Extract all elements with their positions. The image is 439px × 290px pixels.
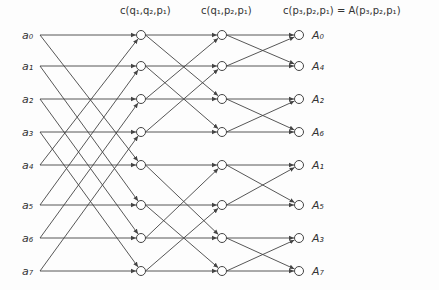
flow-edge [40, 70, 138, 205]
flow-edge [40, 35, 138, 161]
input-label: a₁ [22, 60, 33, 73]
flow-edge [40, 136, 138, 271]
output-label: A₂ [311, 93, 325, 106]
output-label: A₁ [311, 159, 324, 172]
node-stage2-row2 [218, 95, 227, 104]
node-stage2-row5 [218, 201, 227, 210]
node-stage1-row0 [137, 31, 146, 40]
stage2-header: c(q₁,p₂,p₁) [201, 5, 252, 16]
input-label: a₀ [22, 29, 34, 42]
output-label: A₄ [311, 60, 325, 73]
node-stage1-row7 [137, 267, 146, 276]
flow-edge [227, 238, 295, 269]
flow-edge [146, 38, 219, 99]
butterfly-graph: c(q₁,q₂,p₁) c(q₁,p₂,p₁) c(p₃,p₂,p₁) = A(… [0, 0, 439, 290]
node-stage3-row4 [295, 161, 304, 170]
node-stage2-row4 [218, 161, 227, 170]
output-label: A₇ [311, 265, 325, 278]
stage1-header: c(q₁,q₂,p₁) [120, 5, 171, 16]
node-stage2-row7 [218, 267, 227, 276]
node-stage2-row3 [218, 128, 227, 137]
flow-edge [227, 167, 295, 205]
flow-edge [40, 66, 138, 201]
flow-edge [40, 103, 138, 238]
flow-edge [146, 205, 219, 268]
output-label: A₆ [311, 126, 325, 139]
node-stage1-row1 [137, 62, 146, 71]
flow-edge [227, 99, 295, 130]
flow-edge [227, 35, 295, 64]
output-label: A₀ [311, 29, 325, 42]
node-stage3-row1 [295, 62, 304, 71]
labels: c(q₁,q₂,p₁) c(q₁,p₂,p₁) c(p₃,p₂,p₁) = A(… [22, 5, 401, 278]
flow-edge [146, 69, 219, 132]
flow-edge [146, 165, 219, 235]
node-stage3-row2 [295, 95, 304, 104]
flow-edge [227, 37, 295, 66]
flow-edge [146, 35, 219, 96]
node-stage1-row5 [137, 201, 146, 210]
input-label: a₂ [22, 93, 34, 106]
input-label: a₄ [22, 159, 34, 172]
flow-edge [40, 99, 138, 234]
node-stage1-row2 [137, 95, 146, 104]
flow-edge [40, 132, 138, 267]
input-label: a₆ [22, 232, 34, 245]
node-stage1-row6 [137, 234, 146, 243]
flow-edge [227, 240, 295, 271]
flow-edge [146, 208, 219, 271]
node-stage2-row1 [218, 62, 227, 71]
node-stage3-row7 [295, 267, 304, 276]
node-stage2-row0 [218, 31, 227, 40]
node-stage1-row4 [137, 161, 146, 170]
flow-edge [227, 101, 295, 132]
node-stage3-row0 [295, 31, 304, 40]
output-label: A₃ [311, 232, 325, 245]
node-stage3-row6 [295, 234, 304, 243]
edges [40, 35, 295, 271]
fft-butterfly-diagram: c(q₁,q₂,p₁) c(q₁,p₂,p₁) c(p₃,p₂,p₁) = A(… [0, 0, 439, 290]
node-stage2-row6 [218, 234, 227, 243]
flow-edge [40, 39, 138, 165]
input-label: a₅ [22, 199, 33, 212]
node-stage3-row5 [295, 201, 304, 210]
flow-edge [146, 168, 219, 238]
input-label: a₇ [22, 265, 34, 278]
nodes [137, 31, 304, 276]
flow-edge [146, 66, 219, 129]
node-stage1-row3 [137, 128, 146, 137]
output-label: A₅ [311, 199, 324, 212]
input-label: a₃ [22, 126, 34, 139]
node-stage3-row3 [295, 128, 304, 137]
stage3-header: c(p₃,p₂,p₁) = A(p₃,p₂,p₁) [283, 5, 401, 16]
flow-edge [227, 165, 295, 203]
